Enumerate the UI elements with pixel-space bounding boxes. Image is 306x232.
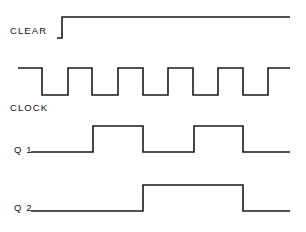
signal-label-q1: Q 1 <box>14 144 33 155</box>
timing-waveform-canvas: CLEAR CLOCK Q 1 Q 2 <box>0 0 306 232</box>
waveform-q2 <box>31 185 290 211</box>
timing-diagram: CLEAR CLOCK Q 1 Q 2 <box>0 0 306 232</box>
signal-label-clock: CLOCK <box>10 102 48 113</box>
waveform-clock <box>18 68 290 95</box>
signal-label-clear: CLEAR <box>10 25 47 36</box>
waveform-clear <box>57 17 290 38</box>
waveform-q1 <box>31 126 290 152</box>
signal-label-q2: Q 2 <box>14 202 33 213</box>
